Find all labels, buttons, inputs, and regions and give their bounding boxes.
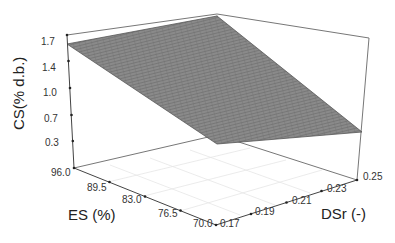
x-tick-label: 89.5 — [87, 182, 107, 193]
x-axis-title: ES (%) — [68, 206, 116, 223]
response-surface — [67, 16, 362, 144]
z-tick-label: 1.7 — [41, 36, 55, 47]
x-tick-label: 76.5 — [158, 208, 178, 219]
z-tick-label: 0.7 — [44, 113, 58, 124]
x-tick-label: 96.0 — [51, 167, 71, 178]
surface-plot: 1.7 1.4 1.0 0.7 0.3 96.0 89.5 83.0 76.5 … — [0, 0, 395, 243]
y-tick-label: 0.19 — [255, 206, 275, 217]
y-tick-label: 0.21 — [292, 195, 312, 206]
y-tick-label: 0.23 — [327, 183, 347, 194]
y-axis-title: DSr (-) — [321, 205, 366, 222]
x-tick-label: 83.0 — [122, 194, 142, 205]
y-tick-label: 0.17 — [220, 218, 240, 229]
z-tick-label: 0.3 — [45, 137, 59, 148]
z-tick-label: 1.4 — [42, 62, 56, 73]
z-tick-labels: 1.7 1.4 1.0 0.7 0.3 — [41, 36, 59, 148]
z-tick-label: 1.0 — [43, 87, 57, 98]
y-tick-label: 0.25 — [363, 171, 383, 182]
z-axis-title: CS(% d.b.) — [10, 57, 27, 130]
x-tick-label: 70.0 — [193, 218, 213, 229]
